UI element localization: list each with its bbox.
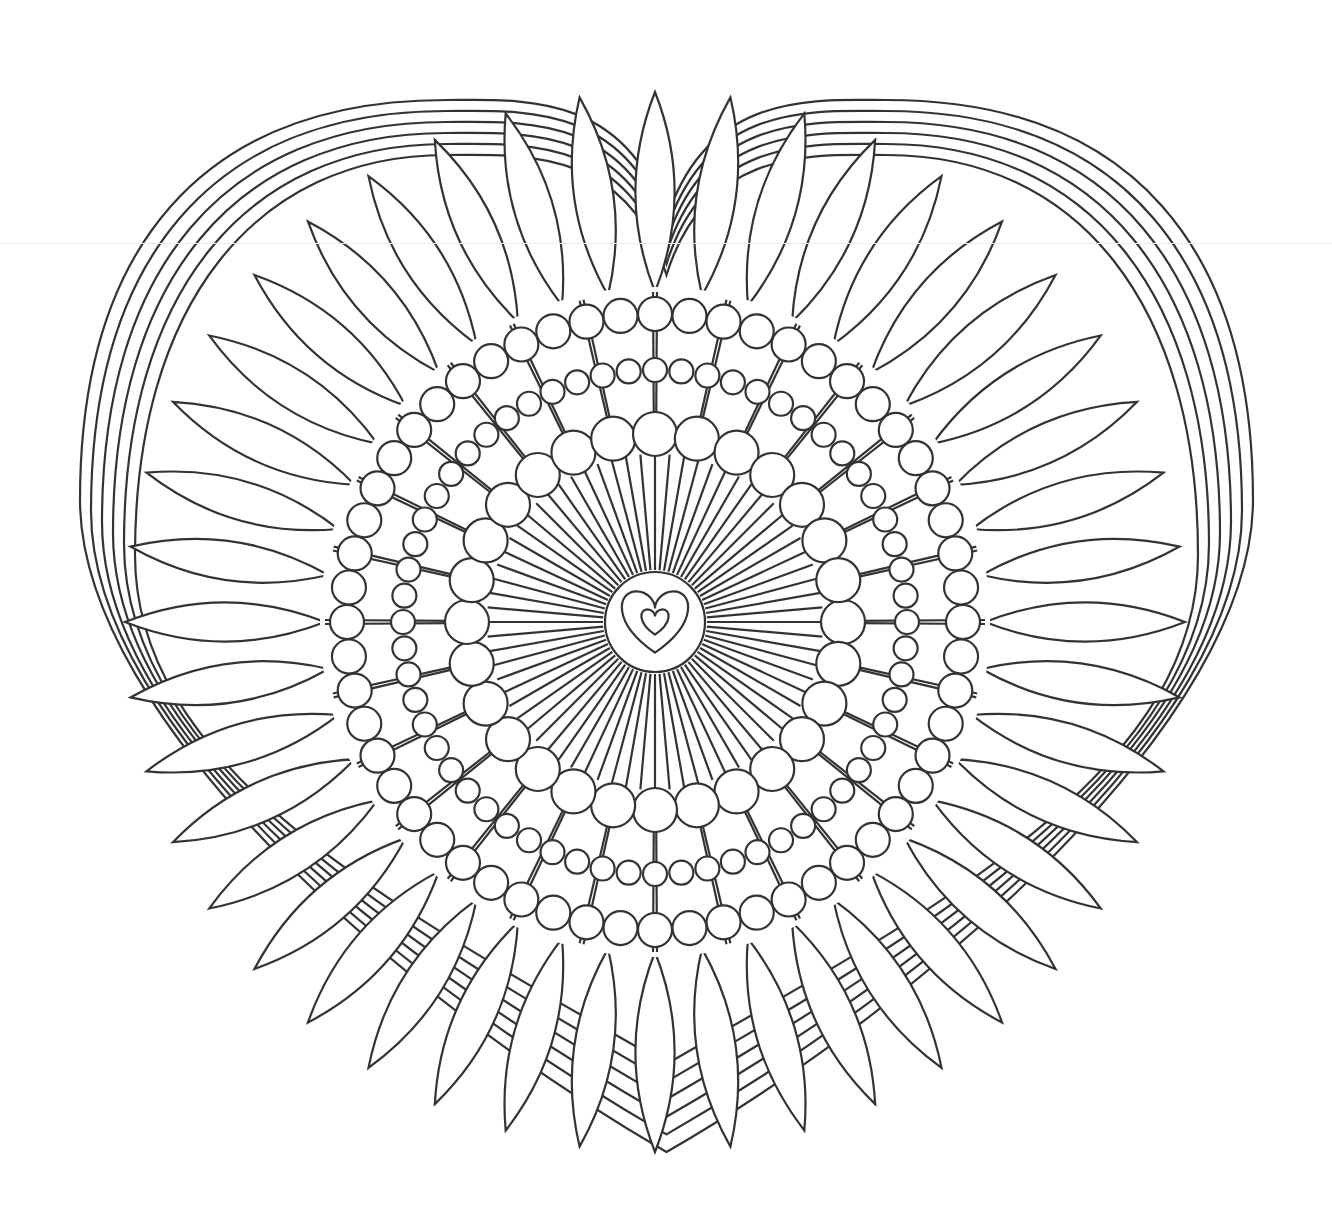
bead [861,736,885,760]
bead [769,828,793,852]
bead [541,840,565,864]
bead [915,739,949,773]
bead [330,605,364,639]
bead [377,441,411,475]
bead [675,783,719,827]
bead [565,370,589,394]
bead [391,610,415,634]
bead [889,662,913,686]
bead [413,508,437,532]
bead [812,423,836,447]
bead [643,862,667,886]
bead [591,783,635,827]
bead [715,769,759,813]
bead [929,503,963,537]
bead [591,856,615,880]
bead [450,642,494,686]
bead [591,364,615,388]
bead [425,736,449,760]
bead [861,484,885,508]
bead [403,532,427,556]
bead [413,712,437,736]
bead [740,896,774,930]
bead [695,364,719,388]
bead [847,758,871,782]
bead [745,840,769,864]
bead [569,905,603,939]
center-circle [605,572,705,672]
bead [802,518,846,562]
bead [672,911,706,945]
bead [504,328,538,362]
bead [361,739,395,773]
bead [604,911,638,945]
bead [707,305,741,339]
bead [633,788,677,832]
bead [802,344,836,378]
bead [392,584,416,608]
bead [830,846,864,880]
heart-mandala-artwork [0,0,1332,1232]
bead [392,636,416,660]
bead [883,532,907,556]
bead [439,462,463,486]
bead [569,305,603,339]
bead [873,508,897,532]
bead [879,413,913,447]
bead [944,571,978,605]
bead [474,797,498,821]
bead [894,636,918,660]
bead [769,392,793,416]
bead [474,423,498,447]
bead [721,370,745,394]
bead [446,364,480,398]
bead [695,856,719,880]
bead [338,674,372,708]
bead [638,297,672,331]
bead [439,758,463,782]
bead [830,779,854,803]
bead [425,484,449,508]
bead [821,600,865,644]
bead [504,882,538,916]
bead [812,797,836,821]
bead [929,707,963,741]
bead [495,406,519,430]
bead [536,896,570,930]
bead [495,814,519,838]
bead [517,828,541,852]
bead [669,359,693,383]
bead [899,769,933,803]
bead [347,707,381,741]
bead [617,359,641,383]
bead [847,462,871,486]
bead [899,441,933,475]
bead [772,328,806,362]
bead [474,344,508,378]
bead [915,471,949,505]
bead [464,682,508,726]
bead [816,558,860,602]
bead [617,861,641,885]
bead [347,503,381,537]
bead [397,797,431,831]
bead [361,471,395,505]
bead [604,299,638,333]
center-medallion [605,572,705,672]
bead [889,558,913,582]
bead [551,431,595,475]
bead [672,299,706,333]
bead [332,571,366,605]
bead [873,712,897,736]
bead [541,380,565,404]
bead [474,866,508,900]
bead [740,314,774,348]
bead [946,605,980,639]
bead [791,406,815,430]
bead [517,392,541,416]
bead [816,642,860,686]
bead [721,850,745,874]
bead [332,639,366,673]
bead [403,688,427,712]
bead [338,536,372,570]
